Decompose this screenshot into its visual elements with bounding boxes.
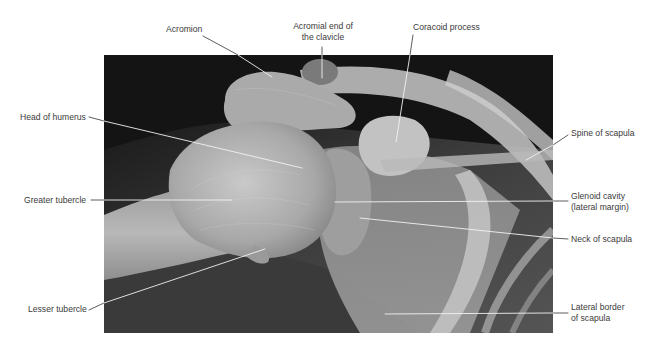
label-neck-of-scapula: Neck of scapula: [571, 234, 632, 245]
label-acromial-end-line2: the clavicle: [282, 32, 364, 43]
label-lateral-border-line1: Lateral border: [571, 302, 625, 313]
label-acromial-end-line1: Acromial end of: [282, 21, 364, 32]
label-acromion: Acromion: [166, 24, 202, 35]
label-glenoid-cavity: Glenoid cavity (lateral margin): [571, 191, 629, 212]
label-glenoid-line1: Glenoid cavity: [571, 191, 629, 202]
label-greater-tubercle: Greater tubercle: [24, 195, 86, 206]
label-spine-of-scapula: Spine of scapula: [571, 128, 635, 139]
label-coracoid-process: Coracoid process: [413, 22, 480, 33]
label-acromial-end-of-clavicle: Acromial end of the clavicle: [282, 21, 364, 42]
anatomy-figure: Acromion Acromial end of the clavicle Co…: [0, 0, 654, 350]
xray-image: [104, 55, 553, 333]
xray-illustration: [0, 0, 654, 350]
label-lateral-border-line2: of scapula: [571, 313, 625, 324]
label-lesser-tubercle: Lesser tubercle: [28, 304, 87, 315]
label-head-of-humerus: Head of humerus: [20, 112, 86, 123]
label-lateral-border-of-scapula: Lateral border of scapula: [571, 302, 625, 323]
label-glenoid-line2: (lateral margin): [571, 202, 629, 213]
